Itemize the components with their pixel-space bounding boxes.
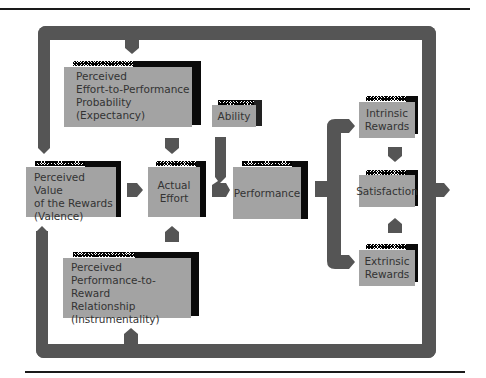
arrow-instrumentality-to-effort-icon [165,226,179,242]
arrow-down-to-expectancy-icon [125,38,139,54]
loop-left-lower-bar [36,231,48,358]
arrow-performance-to-rewards-icon [315,113,355,275]
intrinsic-label: Intrinsic Rewards [365,107,410,133]
arrow-valence-to-effort-icon [127,183,143,197]
arrow-extrinsic-to-satisfaction-icon [388,218,402,233]
performance-label: Performance [234,187,301,200]
arrow-ability-to-performance-icon [212,137,230,197]
expectancy-label: Perceived Effort-to-Performance Probabil… [76,70,192,122]
loop-bottom-bar [36,344,436,358]
instrumentality-label: Perceived Performance-to-Reward Relation… [71,261,191,326]
arrow-intrinsic-to-satisfaction-icon [388,147,402,162]
ability-label: Ability [218,110,251,123]
bottom-rule [25,371,465,373]
loop-right-bar [422,26,436,358]
loop-top-bar [38,26,436,40]
arrow-loop-to-instrumentality-icon [124,328,138,344]
arrow-loop-to-valence-icon [36,226,48,238]
arrow-satisfaction-to-loop-icon [436,183,450,197]
valence-label: Perceived Value of the Rewards (Valence) [34,171,116,223]
arrow-down-to-valence-icon [38,140,52,154]
extrinsic-label: Extrinsic Rewards [364,255,409,281]
top-rule [0,8,470,10]
arrow-expectancy-to-effort-icon [165,138,179,154]
satisfaction-label: Satisfaction [356,185,418,198]
effort-label: Actual Effort [158,179,191,205]
loop-left-upper-bar [38,26,50,145]
